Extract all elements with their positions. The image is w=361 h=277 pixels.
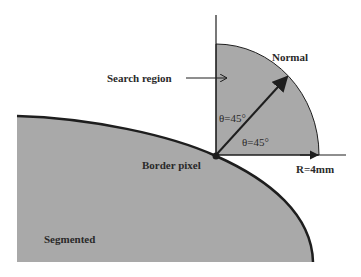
segmented-label: Segmented bbox=[44, 233, 95, 245]
border-pixel-dot bbox=[213, 153, 220, 160]
diagram-canvas: Normal Search region θ=45° θ=45° Border … bbox=[0, 0, 361, 277]
normal-label: Normal bbox=[272, 51, 308, 63]
radius-label: R=4mm bbox=[296, 163, 334, 175]
search-region-label: Search region bbox=[107, 72, 172, 84]
theta-upper-label: θ=45° bbox=[219, 112, 246, 124]
border-pixel-label: Border pixel bbox=[142, 159, 201, 171]
theta-lower-label: θ=45° bbox=[242, 136, 269, 148]
